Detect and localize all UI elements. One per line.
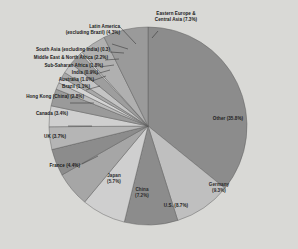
pie-chart-figure: Eastern Europe & Central Asia (7.3%) Lat… (0, 0, 298, 249)
label-sub-saharan-africa: Sub-Saharan Africa (1.8%) (2, 63, 103, 69)
label-china: China (7.2%) (126, 187, 158, 198)
label-japan-line1: Japan (107, 173, 121, 178)
label-eeca-line1: Eastern Europe & (156, 11, 195, 16)
pie-chart-svg (0, 0, 298, 249)
label-brazil: Brazil (1.1%) (2, 84, 90, 90)
label-japan-line2: (5.7%) (107, 179, 121, 184)
label-hong-kong-china: Hong Kong (China) (2.8%) (2, 94, 84, 100)
label-other: Other (35.8%) (198, 116, 258, 122)
label-china-line2: (7.2%) (135, 193, 149, 198)
label-germany: Germany (9.3%) (196, 182, 242, 193)
label-germany-line2: (9.3%) (212, 188, 226, 193)
label-latam-line1: Latin America (89, 24, 120, 29)
label-canada: Canada (3.4%) (2, 111, 68, 117)
label-japan: Japan (5.7%) (98, 173, 130, 184)
label-eeca-line2: Central Asia (7.3%) (155, 17, 197, 22)
label-china-line1: China (135, 187, 148, 192)
label-france: France (4.4%) (2, 163, 80, 169)
label-germany-line1: Germany (209, 182, 229, 187)
label-uk: UK (3.7%) (2, 134, 66, 140)
label-middle-east-north-africa: Middle East & North Africa (2.2%) (2, 55, 108, 61)
label-latam-line2: (excluding Brazil) (4.3%) (66, 30, 120, 35)
label-eastern-europe-central-asia: Eastern Europe & Central Asia (7.3%) (130, 11, 222, 22)
label-australia: Australia (1.0%) (2, 77, 94, 83)
label-latin-america: Latin America (excluding Brazil) (4.3%) (8, 24, 120, 35)
label-us: U.S. (8.7%) (152, 203, 200, 209)
label-india: India (0.9%) (2, 70, 98, 76)
label-south-asia: South Asia (excluding India) (0.3) (2, 47, 110, 53)
